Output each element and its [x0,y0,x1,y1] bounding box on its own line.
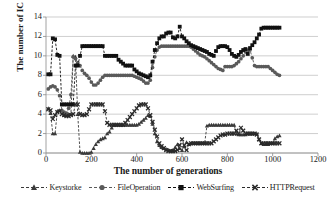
legend-item-fileoperation[interactable]: FileOperation [89,183,160,192]
legend-label: FileOperation [117,183,160,192]
legend-item-keystorke[interactable]: Keystorke [21,183,81,192]
legend-item-httprequest[interactable]: HTTPRequest [242,183,315,192]
chart-legend: Keystorke FileOperation WebSurfing HTTPR… [0,183,336,192]
legend-label: WebSurfing [196,183,233,192]
legend-label: Keystorke [49,183,81,192]
circle-marker-icon [89,183,115,192]
legend-item-websurfing[interactable]: WebSurfing [168,183,233,192]
legend-label: HTTPRequest [270,183,315,192]
chart-figure: The number of IC 14 12 10 8 6 4 2 0 0 20… [0,0,336,201]
cross-marker-icon [242,183,268,192]
series-httprequest [46,103,281,153]
square-marker-icon [168,183,194,192]
triangle-marker-icon [21,183,47,192]
x-axis-title: The number of generations [0,165,336,176]
